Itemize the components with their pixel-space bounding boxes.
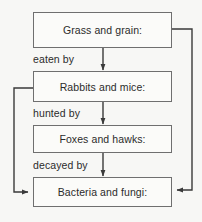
node-label-foxes-and-hawks: Foxes and hawks:: [59, 133, 145, 145]
node-label-rabbits-and-mice: Rabbits and mice:: [60, 81, 146, 93]
edge-label-decayed-by: decayed by: [33, 159, 88, 171]
food-chain-diagram: Grass and grain: Rabbits and mice: Foxes…: [0, 0, 202, 222]
edge-label-eaten-by: eaten by: [33, 53, 74, 65]
edge-label-hunted-by: hunted by: [33, 107, 80, 119]
node-bacteria-and-fungi[interactable]: Bacteria and fungi:: [33, 177, 172, 207]
node-rabbits-and-mice[interactable]: Rabbits and mice:: [33, 71, 172, 102]
connector-grass-to-bacteria-right-loop: [172, 29, 192, 190]
node-label-bacteria-and-fungi: Bacteria and fungi:: [58, 186, 147, 198]
node-grass-and-grain[interactable]: Grass and grain:: [33, 12, 172, 48]
node-foxes-and-hawks[interactable]: Foxes and hawks:: [33, 125, 172, 153]
node-label-grass-and-grain: Grass and grain:: [63, 24, 142, 36]
connector-rabbits-to-bacteria-left-loop: [14, 88, 33, 192]
